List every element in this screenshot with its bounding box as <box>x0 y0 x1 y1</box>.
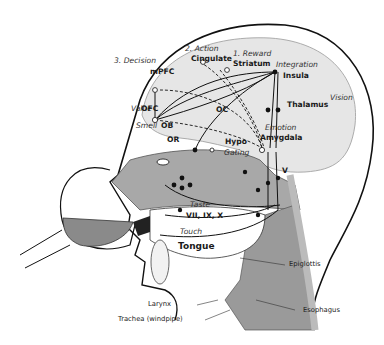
ofc-label: OFC <box>141 105 158 113</box>
ob-label: OB <box>161 122 173 130</box>
action-label: 2. Action <box>185 45 219 53</box>
trachea-label: Trachea (windpipe) <box>118 316 183 323</box>
or-label: OR <box>167 136 179 144</box>
wine-liquid <box>63 218 133 246</box>
vision-label: Vision <box>330 94 353 102</box>
smell-label: Smell <box>136 122 157 130</box>
integration-label: Integration <box>276 61 318 69</box>
esophagus-label: Esophagus <box>303 307 340 314</box>
decision-label: 3. Decision <box>114 57 156 65</box>
insula-label: Insula <box>283 72 309 80</box>
reward-label: 1. Reward <box>233 50 271 58</box>
striatum-label: Striatum <box>233 60 271 68</box>
v-label: V <box>282 167 288 175</box>
gating-label: Gating <box>224 149 249 157</box>
cingulate-label: Cingulate <box>191 55 232 63</box>
wine-glass-stem <box>20 230 70 268</box>
tongue-label: Tongue <box>178 242 215 251</box>
larynx-label: Larynx <box>148 301 171 308</box>
hypo-label: Hypo <box>225 138 247 146</box>
amygdala-label: Amygdala <box>260 134 302 142</box>
cranial-nerves-label: VII, IX, X <box>186 212 223 220</box>
head-sensory-pathways-diagram: 3. Decision mPFC 2. Action Cingulate 1. … <box>0 0 384 345</box>
epiglottis-label: Epiglottis <box>289 261 321 268</box>
touch-label: Touch <box>180 228 202 236</box>
mpfc-label: mPFC <box>150 68 174 76</box>
jaw-bone <box>151 240 169 284</box>
liquid-in-mouth <box>133 216 150 236</box>
thalamus-label: Thalamus <box>287 101 328 109</box>
oc-label: OC <box>216 106 228 114</box>
emotion-label: Emotion <box>265 124 296 132</box>
taste-label: Taste <box>190 201 210 209</box>
